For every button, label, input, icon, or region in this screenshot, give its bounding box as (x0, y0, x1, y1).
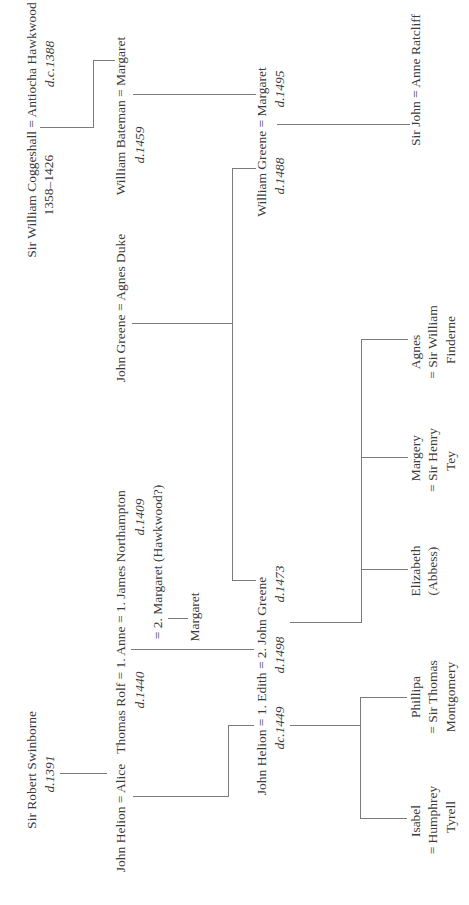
connector-wgreene-ratcliff (277, 124, 410, 125)
rolf-dates: d.1440 (133, 671, 147, 708)
northampton-dates-text: d.1409 (132, 498, 147, 535)
connector-greene-children (290, 622, 361, 623)
isabel-spouse: = Humphrey (426, 786, 440, 855)
margery-spouse-surname: Tey (444, 451, 458, 471)
edith-dates: d.1498 (273, 636, 287, 673)
family-tree-diagram: Sir William Coggeshall = Antiocha Hawkwo… (0, 0, 469, 905)
connector-to-phillipa (360, 697, 407, 698)
connector-helion-children (290, 725, 360, 726)
daughter-margaret: Margaret (188, 592, 202, 641)
connector-helion-alice (133, 796, 229, 797)
helion-dates-text: dc.1449 (272, 706, 287, 749)
swinborne-dates: d.1391 (43, 755, 57, 792)
isabel-name: Isabel (409, 805, 423, 837)
margaret-greene-dates: d.1495 (273, 70, 287, 107)
connector-helion-drop (228, 725, 229, 797)
connector-greene-sibling-bar-2 (361, 339, 362, 623)
bateman-marriage: William Bateman = Margaret (114, 37, 128, 196)
connector-coggeshall (40, 127, 93, 128)
jgreene-dates-text: d.1473 (272, 565, 287, 602)
swinborne-dates-text: d.1391 (42, 755, 57, 792)
helion-dates: dc.1449 (273, 706, 287, 749)
rolf-marriage: Thomas Rolf = 1. Anne = 1. James Northam… (114, 490, 128, 753)
swinborne-name: Sir Robert Swinborne (25, 711, 39, 829)
connector-greene-sibling-bar (232, 168, 233, 580)
connector-to-helion (228, 725, 254, 726)
connector-rolf-edith (131, 649, 254, 650)
connector-swinborne-alice (60, 773, 107, 774)
connector-to-elizabeth (361, 569, 408, 570)
helion-alice-marriage: John Helion = Alice (114, 764, 128, 872)
connector-bateman-margaret (133, 94, 256, 95)
coggeshall-marriage: Sir William Coggeshall = Antiocha Hawkwo… (25, 2, 39, 257)
connector-helion-sibling-bar (360, 697, 361, 818)
bateman-dates: d.1459 (133, 126, 147, 163)
elizabeth-title: (Abbess) (426, 547, 440, 596)
connector-to-margaret-bateman (93, 60, 115, 61)
margery-name: Margery (409, 435, 423, 481)
edith-dates-text: d.1498 (272, 636, 287, 673)
helion-edith-marriage: John Helion = 1. Edith = 2. John Greene (255, 577, 269, 795)
connector-to-margery (361, 457, 408, 458)
rolf-dates-text: d.1440 (132, 671, 147, 708)
connector-to-jgreene (232, 580, 256, 581)
jgreene-duke-marriage: John Greene = Agnes Duke (114, 234, 128, 383)
hawkwood-dates: d.c.1388 (43, 41, 57, 88)
elizabeth-name: Elizabeth (409, 546, 423, 597)
connector-coggeshall-drop (93, 60, 94, 128)
connector-jgreene-duke (132, 323, 232, 324)
ratcliff-marriage: Sir John = Anne Ratcliff (409, 14, 423, 146)
coggeshall-dates: 1358–1426 (42, 155, 56, 216)
isabel-spouse-surname: Tyrell (444, 801, 458, 833)
wgreene-dates: d.1488 (273, 157, 287, 194)
agnes-spouse: = Sir William (426, 305, 440, 379)
second-wife-margaret: = 2. Margaret (Hawkwood?) (151, 485, 165, 639)
connector-to-isabel (360, 818, 407, 819)
northampton-dates: d.1409 (133, 498, 147, 535)
agnes-name: Agnes (409, 335, 423, 370)
hawkwood-dates-text: d.c.1388 (42, 41, 57, 88)
wgreene-dates-text: d.1488 (272, 157, 287, 194)
connector-to-agnes (361, 339, 408, 340)
wgreene-marriage: William Greene = Margaret (255, 67, 269, 217)
bateman-dates-text: d.1459 (132, 126, 147, 163)
margery-spouse: = Sir Henry (426, 428, 440, 492)
phillipa-name: Phillipa (409, 676, 423, 718)
connector-to-wgreene (232, 168, 256, 169)
jgreene-dates: d.1473 (273, 565, 287, 602)
connector-margaret-child (168, 618, 188, 619)
phillipa-spouse: = Sir Thomas (426, 660, 440, 733)
margaret-greene-dates-text: d.1495 (272, 70, 287, 107)
phillipa-spouse-surname: Montgomery (444, 662, 458, 733)
agnes-spouse-surname: Finderne (444, 316, 458, 364)
